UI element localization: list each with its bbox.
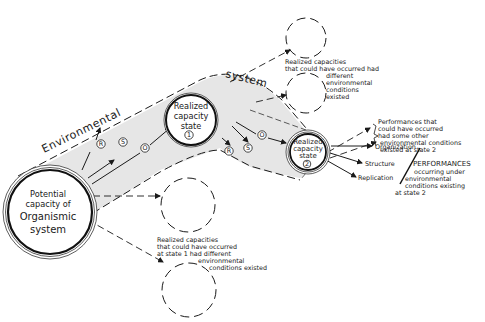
bottom-alt-capacities-note: Realized capacities that could have occu… [157, 236, 267, 272]
svg-text:2: 2 [305, 160, 309, 168]
svg-text:R: R [99, 140, 104, 148]
alt-circle-lower-mid [161, 178, 215, 232]
svg-text:Organismic: Organismic [20, 211, 77, 222]
svg-text:state: state [181, 121, 202, 131]
output-replication: Replication [358, 174, 393, 182]
svg-text:Potential: Potential [30, 189, 66, 199]
marker-R-1: R [97, 140, 105, 149]
arrow-to-replication [326, 160, 356, 177]
svg-text:R: R [227, 147, 232, 155]
svg-text:capacity of: capacity of [25, 199, 71, 209]
svg-text:at state 2: at state 2 [395, 189, 426, 197]
performances-note: PERFORMANCES occurring under environment… [395, 160, 471, 197]
svg-text:S: S [121, 138, 125, 146]
marker-S-2: S [244, 144, 252, 153]
alt-circle-upper-mid [286, 73, 326, 113]
arrow-to-alt-bottom [88, 220, 163, 262]
marker-S-1: S [119, 138, 127, 147]
svg-text:conditions existed: conditions existed [209, 264, 267, 272]
svg-text:existed: existed [326, 93, 349, 101]
svg-text:O: O [142, 144, 147, 152]
svg-text:system: system [30, 224, 66, 235]
svg-text:S: S [246, 144, 250, 152]
arrow-to-structure [330, 153, 362, 163]
organismic-capacity-diagram: Environmental system R [0, 0, 485, 322]
marker-O-1: O [141, 144, 149, 153]
svg-text:PERFORMANCES: PERFORMANCES [413, 160, 471, 168]
realized-capacity-state-1: Realized capacity state 1 [164, 93, 218, 147]
marker-O-2: O [258, 131, 266, 140]
svg-text:state: state [299, 152, 317, 160]
realized-capacity-state-2: Realized capacity state 2 [286, 130, 330, 174]
arrow-to-alt-performances-1 [328, 128, 370, 152]
svg-text:capacity: capacity [174, 111, 209, 121]
svg-text:1: 1 [187, 131, 191, 139]
potential-capacity-node: Potential capacity of Organismic system [3, 165, 97, 259]
output-organization: Organization [375, 143, 416, 151]
output-structure: Structure [365, 160, 395, 168]
svg-text:Realized: Realized [174, 101, 208, 111]
marker-R-2: R [225, 147, 233, 156]
alt-circle-top [286, 18, 326, 58]
svg-text:O: O [259, 131, 264, 139]
alt-circle-bottom [162, 263, 216, 317]
